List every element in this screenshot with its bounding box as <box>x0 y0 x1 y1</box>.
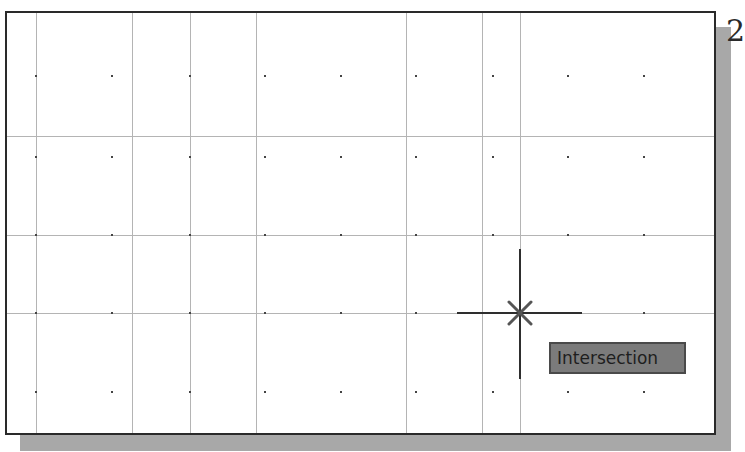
grid-line-vertical <box>256 13 257 433</box>
grid-snap-dot <box>111 234 113 236</box>
grid-snap-dot <box>340 312 342 314</box>
drawing-canvas[interactable]: Intersection <box>5 11 716 435</box>
grid-line-horizontal <box>7 313 714 314</box>
grid-snap-dot <box>492 156 494 158</box>
grid-snap-dot <box>35 312 37 314</box>
grid-snap-dot <box>567 234 569 236</box>
grid-snap-dot <box>35 156 37 158</box>
grid-snap-dot <box>492 75 494 77</box>
grid-line-horizontal <box>7 235 714 236</box>
osnap-tooltip: Intersection <box>549 342 686 374</box>
grid-snap-dot <box>35 75 37 77</box>
grid-snap-dot <box>415 234 417 236</box>
grid-snap-dot <box>264 234 266 236</box>
grid-snap-dot <box>35 234 37 236</box>
grid-snap-dot <box>189 75 191 77</box>
grid-snap-dot <box>415 312 417 314</box>
grid-line-vertical <box>406 13 407 433</box>
grid-snap-dot <box>264 75 266 77</box>
grid-snap-dot <box>492 391 494 393</box>
grid-snap-dot <box>340 156 342 158</box>
grid-snap-dot <box>111 391 113 393</box>
step-number: 2 <box>726 14 745 48</box>
grid-snap-dot <box>264 391 266 393</box>
grid-snap-dot <box>340 75 342 77</box>
grid-snap-dot <box>492 234 494 236</box>
grid-snap-dot <box>643 75 645 77</box>
grid-snap-dot <box>415 156 417 158</box>
intersection-snap-marker-icon <box>506 299 534 327</box>
grid-snap-dot <box>340 234 342 236</box>
grid-snap-dot <box>35 391 37 393</box>
grid-snap-dot <box>264 156 266 158</box>
grid-snap-dot <box>567 391 569 393</box>
grid-snap-dot <box>111 75 113 77</box>
grid-snap-dot <box>340 391 342 393</box>
grid-line-vertical <box>482 13 483 433</box>
grid-snap-dot <box>415 391 417 393</box>
grid-snap-dot <box>189 234 191 236</box>
grid-snap-dot <box>111 156 113 158</box>
grid-snap-dot <box>189 312 191 314</box>
grid-snap-dot <box>567 75 569 77</box>
grid-snap-dot <box>567 156 569 158</box>
grid-snap-dot <box>189 156 191 158</box>
grid-snap-dot <box>111 312 113 314</box>
grid-snap-dot <box>643 156 645 158</box>
grid-snap-dot <box>643 391 645 393</box>
grid-snap-dot <box>643 234 645 236</box>
grid-line-horizontal <box>7 136 714 137</box>
grid-snap-dot <box>189 391 191 393</box>
grid-snap-dot <box>643 312 645 314</box>
grid-line-vertical <box>132 13 133 433</box>
grid-snap-dot <box>415 75 417 77</box>
grid-snap-dot <box>264 312 266 314</box>
